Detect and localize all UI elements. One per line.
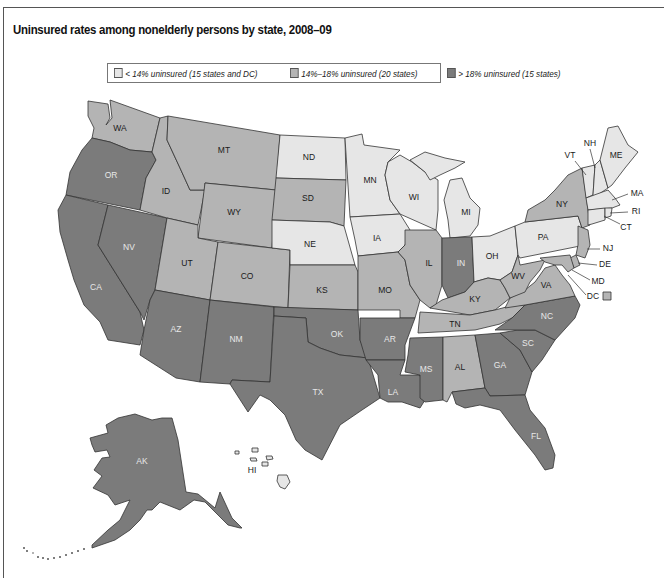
label-me: ME <box>610 150 623 160</box>
label-mi: MI <box>461 207 470 217</box>
label-nm: NM <box>229 334 242 344</box>
label-oh: OH <box>486 251 499 261</box>
label-tn: TN <box>449 319 460 329</box>
state-az[interactable] <box>140 290 210 382</box>
label-nd: ND <box>303 152 315 162</box>
label-in: IN <box>457 258 466 268</box>
label-nj: NJ <box>603 243 613 253</box>
label-ca: CA <box>90 282 102 292</box>
label-ak: AK <box>136 456 148 466</box>
label-ks: KS <box>316 285 328 295</box>
label-nc: NC <box>541 311 553 321</box>
label-ky: KY <box>469 294 481 304</box>
label-hi: HI <box>248 465 257 475</box>
label-ms: MS <box>420 364 433 374</box>
label-fl: FL <box>531 431 541 441</box>
state-fl[interactable] <box>452 388 555 470</box>
label-ga: GA <box>494 360 507 370</box>
label-ut: UT <box>181 258 192 268</box>
label-il: IL <box>425 258 432 268</box>
label-co: CO <box>241 271 254 281</box>
label-ri: RI <box>632 206 641 216</box>
state-ct[interactable] <box>588 208 605 225</box>
state-ak[interactable] <box>90 414 242 548</box>
label-md: MD <box>591 276 604 286</box>
state-hi[interactable] <box>235 448 290 489</box>
label-de: DE <box>599 259 611 269</box>
label-al: AL <box>455 362 466 372</box>
label-mn: MN <box>363 175 376 185</box>
state-nj[interactable] <box>576 226 590 258</box>
label-ma: MA <box>631 188 644 198</box>
label-sd: SD <box>302 193 314 203</box>
label-sc: SC <box>522 338 534 348</box>
dc-swatch <box>603 292 611 300</box>
label-tx: TX <box>313 387 324 397</box>
aleutian-islands <box>23 547 85 560</box>
label-vt: VT <box>565 150 576 160</box>
label-pa: PA <box>538 232 549 242</box>
label-ia: IA <box>373 233 381 243</box>
label-nh: NH <box>584 138 596 148</box>
label-va: VA <box>541 280 552 290</box>
label-wy: WY <box>227 207 241 217</box>
label-ne: NE <box>304 239 316 249</box>
label-ny: NY <box>556 199 568 209</box>
label-la: LA <box>388 387 399 397</box>
label-az: AZ <box>171 324 182 334</box>
label-ok: OK <box>331 329 344 339</box>
label-ar: AR <box>384 334 396 344</box>
label-dc: DC <box>587 291 599 301</box>
label-id: ID <box>162 186 171 196</box>
label-wv: WV <box>511 271 525 281</box>
label-wi: WI <box>409 192 419 202</box>
label-nv: NV <box>123 242 135 252</box>
label-mo: MO <box>378 285 392 295</box>
label-wa: WA <box>113 123 127 133</box>
label-ct: CT <box>620 222 631 232</box>
label-or: OR <box>105 170 118 180</box>
label-mt: MT <box>218 145 230 155</box>
